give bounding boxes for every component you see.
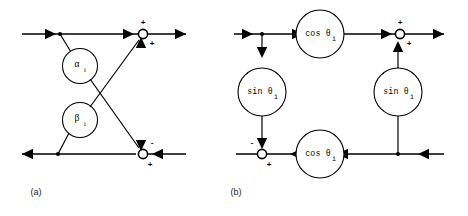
sin-node-left-subscript: i bbox=[274, 94, 278, 101]
arrow-sin-left-into-bottom-sum bbox=[257, 138, 267, 149]
panel-a-bottom-summing-junction bbox=[138, 149, 147, 158]
arrow-top-input-a bbox=[45, 29, 56, 39]
arrow-top-output-b bbox=[433, 29, 444, 39]
arrow-into-sin-left bbox=[257, 47, 267, 58]
panel-a-bottom-sum-sign-bottom: + bbox=[148, 160, 153, 169]
panel-a-top-summing-junction bbox=[138, 29, 147, 38]
beta-node-label: β bbox=[75, 113, 80, 123]
signal-flow-diagram: α i β i + + - + (a) bbox=[0, 0, 468, 216]
arrow-top-output-a bbox=[175, 29, 186, 39]
panel-a-top-sum-sign-bottom: + bbox=[150, 39, 155, 48]
panel-b-bottom-summing-junction bbox=[257, 149, 266, 158]
arrow-into-bottom-sum-a bbox=[152, 149, 163, 159]
alpha-node-subscript: i bbox=[84, 66, 86, 73]
arrow-sin-right-into-top-sum bbox=[393, 41, 403, 52]
beta-node-circle bbox=[63, 103, 98, 138]
beta-node-subscript: i bbox=[84, 120, 86, 127]
arrow-bottom-input-b bbox=[418, 149, 429, 159]
panel-b-bottom-sum-sign-top: - bbox=[251, 138, 254, 147]
panel-b: sin θ i sin θ i cos θ i cos θ i + + bbox=[231, 10, 445, 197]
figure-root: α i β i + + - + (a) bbox=[0, 0, 468, 216]
wire-alpha-to-bottom-sum bbox=[90, 79, 139, 148]
cos-node-top-subscript: i bbox=[332, 36, 336, 43]
panel-a-caption: (a) bbox=[31, 187, 42, 197]
panel-b-caption: (b) bbox=[231, 187, 242, 197]
alpha-node-label: α bbox=[75, 59, 80, 69]
cos-node-bottom-label: cos θ bbox=[305, 149, 331, 158]
panel-a: α i β i + + - + (a) bbox=[22, 18, 186, 197]
alpha-node-circle bbox=[63, 49, 98, 84]
wire-beta-to-top-sum bbox=[90, 40, 139, 107]
arrow-into-top-sum-b bbox=[381, 29, 392, 39]
sin-node-right-label: sin θ bbox=[383, 87, 409, 96]
sin-node-right-subscript: i bbox=[410, 94, 414, 101]
panel-b-bottom-sum-sign-bottom: + bbox=[267, 160, 272, 169]
wire-beta-to-bottom-wire bbox=[58, 133, 69, 154]
wire-top-to-alpha bbox=[60, 34, 71, 52]
panel-a-top-sum-sign-top: + bbox=[141, 18, 146, 27]
arrow-bottom-output-a bbox=[22, 149, 33, 159]
sin-node-left-label: sin θ bbox=[247, 87, 273, 96]
panel-b-top-summing-junction bbox=[395, 29, 404, 38]
panel-a-bottom-sum-sign-top: - bbox=[151, 138, 154, 147]
cos-node-bottom-subscript: i bbox=[332, 156, 336, 163]
panel-b-top-sum-sign-top: + bbox=[398, 18, 403, 27]
arrow-top-input-b bbox=[242, 29, 253, 39]
panel-b-top-sum-sign-bottom: + bbox=[407, 39, 412, 48]
arrow-into-top-sum-a bbox=[123, 29, 134, 39]
cos-node-top-label: cos θ bbox=[305, 29, 331, 38]
